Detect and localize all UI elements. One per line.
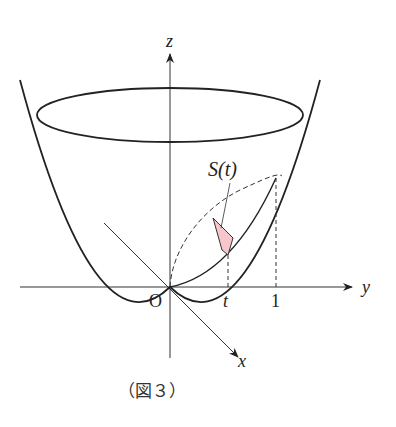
one-label: 1 xyxy=(271,291,280,311)
area-label: S(t) xyxy=(208,158,237,181)
area-s-t-region xyxy=(213,218,233,255)
figure-caption: （図３） xyxy=(118,381,186,401)
y-axis-label: y xyxy=(360,277,370,297)
s-t-leader-line xyxy=(221,183,230,228)
z-axis-label: z xyxy=(165,31,173,51)
x-axis xyxy=(104,223,238,357)
origin-label: O xyxy=(149,291,162,311)
t-label: t xyxy=(223,291,229,311)
x-axis-label: x xyxy=(237,351,246,371)
figure-3-diagram: z y x O t 1 S(t) （図３） xyxy=(0,0,396,427)
